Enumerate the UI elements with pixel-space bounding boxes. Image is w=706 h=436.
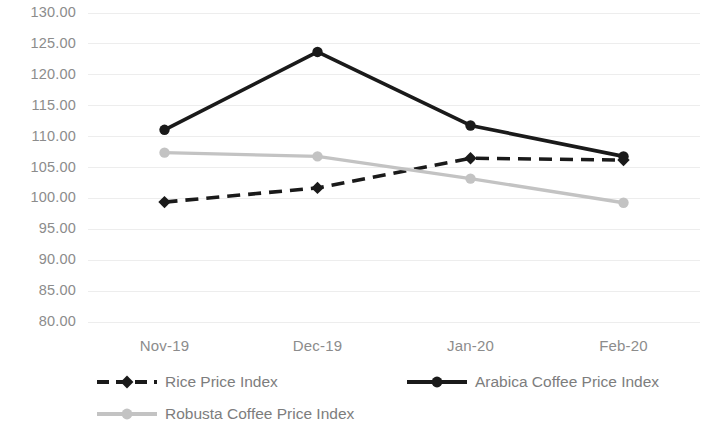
y-axis-tick-label: 120.00 bbox=[2, 67, 76, 82]
x-axis-tick-label: Jan-20 bbox=[411, 338, 531, 353]
data-point-marker bbox=[159, 125, 169, 135]
y-axis-tick-label: 95.00 bbox=[2, 221, 76, 236]
legend-item[interactable]: Robusta Coffee Price Index bbox=[96, 406, 354, 422]
series-markers bbox=[158, 47, 629, 209]
series-line bbox=[165, 158, 624, 202]
legend-item-label: Arabica Coffee Price Index bbox=[475, 374, 659, 390]
y-axis-tick-label: 85.00 bbox=[2, 283, 76, 298]
data-point-marker bbox=[158, 196, 170, 208]
gridlines bbox=[88, 13, 700, 322]
data-point-marker bbox=[465, 173, 475, 183]
data-point-marker bbox=[618, 151, 628, 161]
data-point-marker bbox=[311, 182, 323, 194]
y-axis-tick-label: 130.00 bbox=[2, 5, 76, 20]
data-point-marker bbox=[159, 147, 169, 157]
y-axis-tick-label: 115.00 bbox=[2, 98, 76, 113]
legend-item[interactable]: Rice Price Index bbox=[96, 374, 278, 390]
y-axis-tick-label: 110.00 bbox=[2, 129, 76, 144]
y-axis-tick-label: 105.00 bbox=[2, 160, 76, 175]
plot-area bbox=[0, 0, 706, 436]
line-chart: 130.00125.00120.00115.00110.00105.00100.… bbox=[0, 0, 706, 436]
data-point-marker bbox=[464, 152, 476, 164]
data-point-marker bbox=[312, 47, 322, 57]
legend-swatch-icon bbox=[406, 374, 468, 390]
x-axis-tick-label: Feb-20 bbox=[564, 338, 684, 353]
data-point-marker bbox=[617, 154, 629, 166]
data-point-marker bbox=[465, 120, 475, 130]
legend-item[interactable]: Arabica Coffee Price Index bbox=[406, 374, 659, 390]
legend-marker-icon bbox=[96, 406, 158, 422]
series-line bbox=[165, 52, 624, 156]
y-axis-tick-label: 90.00 bbox=[2, 252, 76, 267]
legend-marker-icon bbox=[96, 374, 158, 390]
legend-item-label: Rice Price Index bbox=[165, 374, 278, 390]
y-axis-tick-label: 125.00 bbox=[2, 36, 76, 51]
y-axis-tick-label: 100.00 bbox=[2, 190, 76, 205]
data-point-marker bbox=[618, 198, 628, 208]
legend-item-label: Robusta Coffee Price Index bbox=[165, 406, 354, 422]
legend-swatch-icon bbox=[96, 406, 158, 422]
x-axis-tick-label: Nov-19 bbox=[105, 338, 225, 353]
legend-marker-icon bbox=[406, 374, 468, 390]
y-axis-tick-label: 80.00 bbox=[2, 314, 76, 329]
data-point-marker bbox=[312, 151, 322, 161]
series-lines bbox=[165, 52, 624, 203]
series-line bbox=[165, 153, 624, 203]
x-axis-tick-label: Dec-19 bbox=[258, 338, 378, 353]
legend-swatch-icon bbox=[96, 374, 158, 390]
chart-legend: Rice Price IndexArabica Coffee Price Ind… bbox=[96, 374, 696, 436]
